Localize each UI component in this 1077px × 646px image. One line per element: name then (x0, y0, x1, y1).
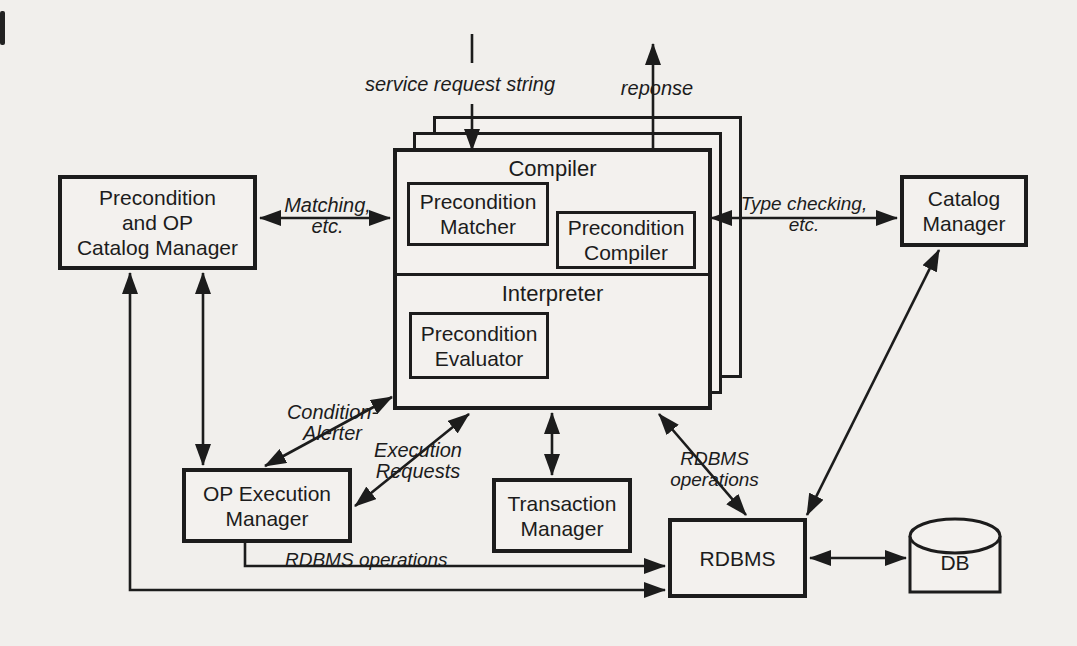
interpreter-section-label: Interpreter (397, 281, 708, 307)
precondition-matcher-label: Precondition Matcher (420, 189, 537, 239)
precondition-matcher-box: Precondition Matcher (407, 182, 549, 246)
precondition-evaluator-label: Precondition Evaluator (421, 321, 538, 371)
transaction-manager-box: Transaction Manager (492, 478, 632, 553)
op-execution-manager-box: OP Execution Manager (182, 468, 352, 543)
rdbms-box: RDBMS (668, 518, 807, 598)
precondition-op-catalog-manager-box: Precondition and OP Catalog Manager (58, 175, 257, 270)
catalog-manager-to-rdbms-arrow (807, 250, 939, 515)
service-request-string-label: service request string (345, 74, 575, 95)
matching-label: Matching, etc. (275, 195, 380, 237)
rdbms-label: RDBMS (700, 546, 776, 571)
precondition-compiler-label: Precondition Compiler (568, 215, 685, 265)
response-label: reponse (602, 78, 712, 99)
scan-artifact (0, 11, 5, 45)
catalog-manager-box: Catalog Manager (900, 175, 1028, 247)
compiler-section-label: Compiler (397, 156, 708, 182)
precondition-compiler-box: Precondition Compiler (556, 211, 696, 269)
rdbms-operations-bottom-label: RDBMS operations (285, 549, 465, 570)
precondition-op-catalog-manager-label: Precondition and OP Catalog Manager (77, 185, 238, 260)
condition-alerter-label: Condition- Alerter (280, 402, 385, 444)
transaction-manager-label: Transaction Manager (508, 491, 617, 541)
catalog-manager-label: Catalog Manager (923, 186, 1006, 236)
precondition-evaluator-box: Precondition Evaluator (409, 312, 549, 379)
type-checking-label: Type checking, etc. (730, 193, 878, 235)
db-label: DB (920, 550, 990, 575)
compiler-interpreter-module: Compiler Interpreter Precondition Matche… (393, 148, 712, 410)
op-execution-manager-label: OP Execution Manager (203, 481, 331, 531)
rdbms-operations-right-label: RDBMS operations (662, 448, 767, 490)
architecture-diagram: Compiler Interpreter Precondition Matche… (0, 0, 1077, 646)
execution-requests-label: Execution Requests (368, 440, 468, 482)
db-cylinder-top (910, 519, 1000, 553)
compiler-interpreter-divider (397, 273, 708, 276)
